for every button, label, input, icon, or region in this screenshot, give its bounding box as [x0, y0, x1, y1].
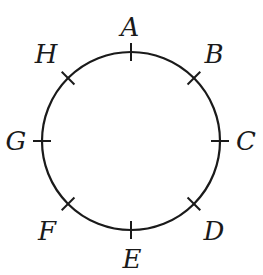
label-e: E: [122, 244, 142, 274]
label-c: C: [236, 126, 256, 156]
label-h: H: [34, 39, 59, 69]
diagram-canvas: ABCDEFGH: [0, 0, 263, 275]
label-f: F: [37, 216, 57, 246]
tick-marks: [33, 43, 229, 239]
label-b: B: [203, 39, 223, 69]
circle-diagram: ABCDEFGH: [0, 0, 263, 275]
label-d: D: [203, 216, 225, 246]
label-a: A: [119, 12, 140, 42]
label-g: G: [6, 126, 27, 156]
